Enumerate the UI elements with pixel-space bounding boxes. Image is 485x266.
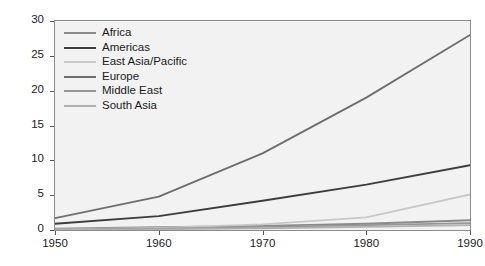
legend-label: Europe	[102, 69, 139, 84]
legend-color-swatch	[64, 105, 96, 107]
chart-legend: AfricaAmericasEast Asia/PacificEuropeMid…	[64, 26, 244, 114]
legend-item: Middle East	[64, 84, 244, 99]
line-chart: Thousand tourists 051015202530 195019601…	[0, 0, 485, 266]
y-tick-label: 0	[22, 222, 44, 234]
legend-label: South Asia	[102, 98, 157, 113]
x-tick-mark	[470, 231, 471, 235]
x-tick-label: 1950	[35, 237, 75, 249]
legend-label: Middle East	[102, 83, 162, 98]
legend-label: East Asia/Pacific	[102, 54, 187, 69]
legend-color-swatch	[64, 61, 96, 63]
legend-label: Africa	[102, 25, 131, 40]
legend-item: East Asia/Pacific	[64, 55, 244, 70]
y-tick-label: 30	[22, 13, 44, 25]
y-tick-label: 5	[22, 187, 44, 199]
x-tick-label: 1980	[346, 237, 386, 249]
x-tick-mark	[159, 231, 160, 235]
legend-item: Europe	[64, 70, 244, 85]
x-tick-mark	[366, 231, 367, 235]
legend-item: Americas	[64, 41, 244, 56]
x-tick-label: 1970	[243, 237, 283, 249]
y-tick-label: 20	[22, 83, 44, 95]
legend-item: Africa	[64, 26, 244, 41]
x-tick-mark	[55, 231, 56, 235]
x-tick-label: 1960	[139, 237, 179, 249]
series-line	[55, 165, 470, 224]
y-tick-label: 15	[22, 118, 44, 130]
legend-item: South Asia	[64, 99, 244, 114]
legend-label: Americas	[102, 40, 150, 55]
y-tick-label: 10	[22, 152, 44, 164]
x-tick-label: 1990	[450, 237, 485, 249]
x-tick-mark	[263, 231, 264, 235]
legend-color-swatch	[64, 90, 96, 92]
legend-color-swatch	[64, 32, 96, 34]
legend-color-swatch	[64, 76, 96, 78]
legend-color-swatch	[64, 47, 96, 49]
y-tick-label: 25	[22, 48, 44, 60]
